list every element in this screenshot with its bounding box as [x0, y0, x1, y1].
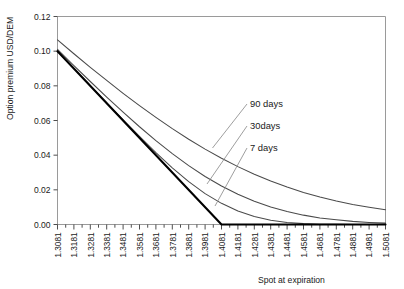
annotation-7-days: 7 days — [250, 142, 278, 153]
annotation-90-days: 90 days — [250, 98, 283, 109]
y-tick-label: 0.00 — [34, 220, 51, 230]
x-tick-label: 1.3981 — [201, 232, 210, 257]
x-tick-label: 1.3081 — [54, 232, 63, 257]
x-tick-label: 1.3781 — [169, 232, 178, 257]
annotation-30-days: 30days — [250, 120, 281, 131]
x-tick-label: 1.3181 — [70, 232, 79, 257]
x-tick-label: 1.4481 — [283, 232, 292, 257]
x-tick-label: 1.4781 — [333, 232, 342, 257]
y-axis-title: Option premium USD/DEM — [5, 17, 15, 120]
y-tick-label: 0.04 — [34, 150, 51, 160]
x-tick-label: 1.3381 — [103, 232, 112, 257]
x-tick-label: 1.4081 — [218, 232, 227, 257]
x-tick-label: 1.4581 — [300, 232, 309, 257]
x-tick-label: 1.4881 — [349, 232, 358, 257]
y-tick-label: 0.06 — [34, 116, 51, 126]
x-tick-label: 1.3581 — [136, 232, 145, 257]
x-axis-title: Spot at expiration — [258, 275, 325, 285]
y-tick-label: 0.02 — [34, 185, 51, 195]
x-tick-label: 1.3281 — [87, 232, 96, 257]
y-tick-label: 0.12 — [34, 12, 51, 22]
x-tick-label: 1.4281 — [251, 232, 260, 257]
x-tick-label: 1.5081 — [382, 232, 391, 257]
x-tick-label: 1.3481 — [119, 232, 128, 257]
x-tick-label: 1.4981 — [365, 232, 374, 257]
x-tick-label: 1.4381 — [267, 232, 276, 257]
x-tick-label: 1.4181 — [234, 232, 243, 257]
y-tick-label: 0.10 — [34, 46, 51, 56]
option-premium-line-chart: 0.000.020.040.060.080.100.12 1.30811.318… — [0, 0, 404, 289]
x-tick-label: 1.3881 — [185, 232, 194, 257]
y-tick-label: 0.08 — [34, 81, 51, 91]
x-tick-label: 1.3681 — [152, 232, 161, 257]
x-tick-label: 1.4681 — [316, 232, 325, 257]
chart-figure: 0.000.020.040.060.080.100.12 1.30811.318… — [0, 0, 404, 289]
